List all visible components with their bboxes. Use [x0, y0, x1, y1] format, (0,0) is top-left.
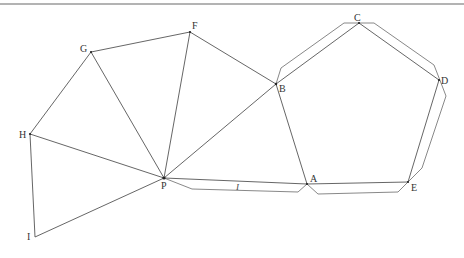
label-c: C: [354, 12, 361, 23]
edge-p-h: [30, 134, 164, 178]
vertex-dot-g: [90, 51, 92, 53]
vertex-dot-b: [275, 83, 277, 85]
edge-p-i: [35, 178, 164, 237]
label-b: B: [279, 83, 286, 94]
label-e: E: [411, 182, 417, 193]
label-h: H: [19, 129, 26, 140]
net-diagram: A B C D E F G H I P I: [0, 0, 464, 258]
label-g: G: [80, 43, 87, 54]
label-f: F: [192, 20, 198, 31]
vertex-dot-d: [438, 79, 440, 81]
vertex-dot-e: [407, 181, 409, 183]
vertex-dot-f: [189, 31, 191, 33]
label-a: A: [310, 173, 318, 184]
glue-tabs: [164, 23, 446, 194]
edge-p-b: [164, 84, 276, 178]
triangle-fan: [30, 32, 307, 237]
edge-p-g: [91, 52, 164, 178]
outline-f-g-h-i: [30, 32, 190, 237]
vertex-labels: A B C D E F G H I P I: [19, 12, 448, 242]
tab-b-c-d: [276, 23, 441, 84]
label-d: D: [441, 75, 448, 86]
label-i: I: [27, 231, 30, 242]
vertex-dot-a: [306, 183, 308, 185]
tab-d-e: [408, 83, 446, 182]
heptagon: [276, 23, 439, 184]
label-p: P: [161, 180, 167, 191]
heptagon-outline: [276, 23, 439, 184]
vertex-points: [29, 22, 440, 185]
edge-p-f: [164, 32, 190, 178]
vertex-dot-h: [29, 133, 31, 135]
edge-f-b: [190, 32, 276, 84]
